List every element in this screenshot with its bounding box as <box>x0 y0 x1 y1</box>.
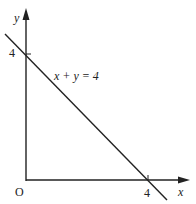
x-axis-arrow-icon <box>178 177 190 184</box>
line-x-plus-y-equals-4 <box>5 34 167 200</box>
origin-label: O <box>15 186 24 198</box>
x-tick-label: 4 <box>144 187 150 199</box>
graph-canvas <box>0 0 196 204</box>
x-axis-label: x <box>178 186 183 198</box>
y-axis-label: y <box>14 12 19 24</box>
y-axis-arrow-icon <box>23 8 30 20</box>
y-tick-label: 4 <box>9 47 15 59</box>
equation-label: x + y = 4 <box>54 70 99 82</box>
